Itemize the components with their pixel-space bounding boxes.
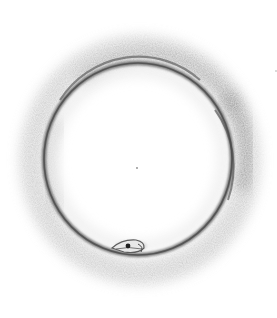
corner-speck <box>275 70 276 71</box>
snake-eye-icon <box>126 244 131 249</box>
ouroboros-sketch <box>0 0 277 318</box>
center-dot <box>136 167 138 169</box>
